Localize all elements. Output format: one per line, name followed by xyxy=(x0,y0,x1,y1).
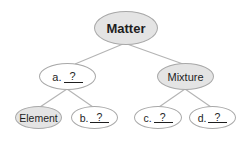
matter-tree-diagram: Matter a. ? Mixture Element b. ? c. ? d.… xyxy=(0,0,248,142)
node-element-label: Element xyxy=(19,112,58,124)
node-a-prefix: a. xyxy=(52,71,61,83)
node-d-prefix: d. xyxy=(198,112,207,124)
edge-mixture-c xyxy=(159,89,185,107)
node-a-blank: ? xyxy=(64,71,83,83)
node-d-blank: ? xyxy=(208,112,227,124)
node-b-blank: ? xyxy=(90,112,109,124)
node-b: b. ? xyxy=(71,106,118,129)
node-mixture-label: Mixture xyxy=(167,71,203,83)
edge-matter-mixture xyxy=(127,44,183,64)
edge-mixture-d xyxy=(185,89,211,107)
node-c: c. ? xyxy=(134,106,182,129)
node-mixture: Mixture xyxy=(157,63,214,90)
node-matter-label: Matter xyxy=(106,21,145,36)
node-c-blank: ? xyxy=(154,112,173,124)
edge-a-element xyxy=(40,89,67,107)
edge-matter-a xyxy=(75,44,123,64)
node-a: a. ? xyxy=(39,63,96,90)
node-c-prefix: c. xyxy=(143,112,151,124)
node-matter: Matter xyxy=(94,11,158,45)
node-d: d. ? xyxy=(189,106,236,129)
node-b-prefix: b. xyxy=(80,112,89,124)
node-element: Element xyxy=(15,106,62,129)
edge-a-b xyxy=(67,89,93,107)
